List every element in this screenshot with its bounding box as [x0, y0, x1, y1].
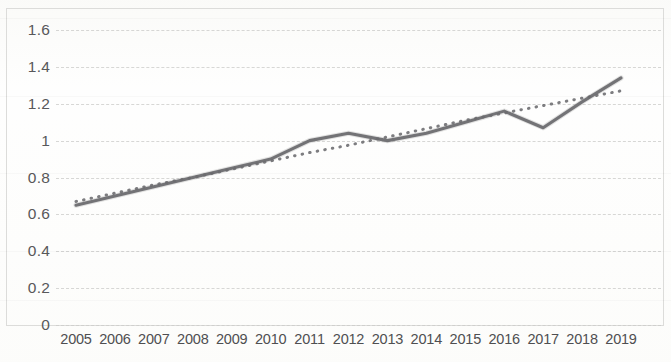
x-tick-label: 2017	[527, 331, 558, 347]
chart-series-layer	[56, 30, 661, 325]
x-tick-label: 2015	[450, 331, 481, 347]
y-tick-label: 0.4	[6, 242, 50, 260]
y-tick-label: 1.2	[6, 95, 50, 113]
y-tick-label: 1.4	[6, 58, 50, 76]
line-chart: 00.20.40.60.811.21.41.6 2005200620072008…	[0, 0, 671, 362]
y-tick-label: 0.8	[6, 169, 50, 187]
y-tick-label: 0	[6, 316, 50, 334]
x-tick-label: 2018	[566, 331, 597, 347]
y-tick-label: 1.6	[6, 21, 50, 39]
x-tick-label: 2011	[294, 331, 324, 347]
chart-plot-area	[56, 30, 661, 325]
x-tick-label: 2005	[60, 331, 91, 347]
x-tick-label: 2007	[138, 331, 169, 347]
x-tick-label: 2012	[333, 331, 364, 347]
y-tick-label: 0.6	[6, 205, 50, 223]
y-axis-labels: 00.20.40.60.811.21.41.6	[0, 30, 50, 325]
x-tick-label: 2010	[255, 331, 286, 347]
x-tick-label: 2019	[605, 331, 636, 347]
y-tick-label: 1	[6, 132, 50, 150]
x-tick-label: 2014	[411, 331, 442, 347]
x-tick-label: 2008	[177, 331, 208, 347]
data-line-series	[76, 78, 621, 205]
y-tick-label: 0.2	[6, 279, 50, 297]
x-tick-label: 2016	[488, 331, 519, 347]
x-axis-labels: 2005200620072008200920102011201220132014…	[56, 331, 661, 357]
x-tick-label: 2013	[372, 331, 403, 347]
x-tick-label: 2006	[99, 331, 130, 347]
gridline-0	[56, 325, 661, 326]
x-tick-label: 2009	[216, 331, 247, 347]
